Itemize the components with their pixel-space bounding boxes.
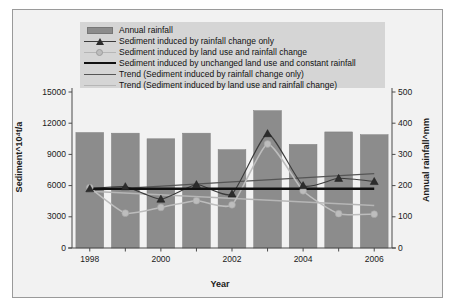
figure-container: Annual rainfall Sediment induced by rain… [0, 0, 455, 308]
legend-label: Annual rainfall [119, 25, 173, 36]
legend-item-trend-landuse-rainfall: Trend (Sediment induced by land use and … [84, 80, 337, 91]
x-axis-tick: 2006 [354, 254, 394, 264]
legend-item-unchanged-landuse-constant-rainfall: Sediment induced by unchanged land use a… [84, 58, 356, 69]
y-axis-left-tick: 3000 [26, 211, 66, 221]
x-axis-tick: 2002 [212, 254, 252, 264]
y-axis-right-tick: 200 [398, 180, 438, 190]
legend-item-rainfall-change-only: Sediment induced by rainfall change only [84, 36, 274, 47]
x-axis-tick: 1998 [70, 254, 110, 264]
y-axis-left-tick: 0 [26, 243, 66, 253]
x-axis-tick: 2000 [141, 254, 181, 264]
legend-key-circle-line [84, 47, 116, 58]
y-axis-left-tick: 15000 [26, 87, 66, 97]
chart-legend: Annual rainfall Sediment induced by rain… [80, 22, 385, 88]
y-axis-left-tick: 9000 [26, 149, 66, 159]
legend-key-thick-line [84, 58, 116, 69]
legend-label: Sediment induced by land use and rainfal… [119, 47, 307, 58]
y-axis-left-tick: 12000 [26, 118, 66, 128]
legend-key-bar-swatch [84, 25, 116, 36]
y-axis-left-title: Sediment^10⁴t/a [14, 102, 24, 212]
legend-key-trend-mid-line [84, 69, 116, 80]
legend-key-triangle-line [84, 36, 116, 47]
y-axis-right-tick: 100 [398, 211, 438, 221]
legend-label: Sediment induced by rainfall change only [119, 36, 274, 47]
y-axis-left-tick: 6000 [26, 180, 66, 190]
y-axis-right-tick: 400 [398, 118, 438, 128]
legend-item-annual-rainfall: Annual rainfall [84, 25, 173, 36]
y-axis-right-tick: 0 [398, 243, 438, 253]
x-axis-tick: 2004 [283, 254, 323, 264]
legend-label: Sediment induced by unchanged land use a… [119, 58, 356, 69]
y-axis-right-tick: 300 [398, 149, 438, 159]
legend-label: Trend (Sediment induced by rainfall chan… [119, 69, 304, 80]
y-axis-right-tick: 500 [398, 87, 438, 97]
legend-item-landuse-rainfall-change: Sediment induced by land use and rainfal… [84, 47, 307, 58]
legend-key-trend-light-line [84, 80, 116, 91]
legend-item-trend-rainfall-only: Trend (Sediment induced by rainfall chan… [84, 69, 304, 80]
x-axis-title: Year [150, 279, 290, 289]
legend-label: Trend (Sediment induced by land use and … [119, 80, 337, 91]
